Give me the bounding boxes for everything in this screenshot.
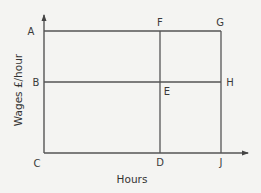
point-label-c: C xyxy=(34,158,41,169)
point-label-e: E xyxy=(164,86,170,97)
y-axis-title: Wages £/hour xyxy=(12,53,24,126)
x-axis-title: Hours xyxy=(117,173,148,185)
point-label-b: B xyxy=(33,77,40,88)
point-label-f: F xyxy=(157,17,163,28)
point-label-g: G xyxy=(216,17,224,28)
point-label-d: D xyxy=(156,157,164,168)
point-label-h: H xyxy=(226,77,234,88)
point-label-j: J xyxy=(219,157,223,168)
wage-hours-diagram: A B C F G H E D J Hours Wages £/hour xyxy=(0,0,261,193)
point-label-a: A xyxy=(28,26,35,37)
